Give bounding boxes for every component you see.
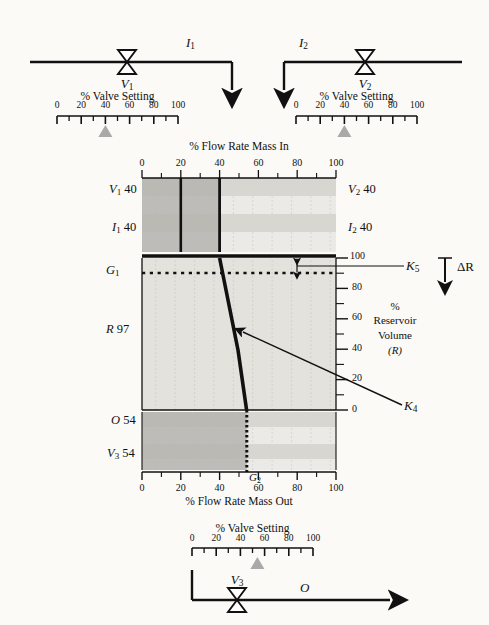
- chart-bottom-axis-title: % Flow Rate Mass Out: [185, 495, 292, 507]
- res-tick-0: 0: [352, 403, 357, 414]
- figure-canvas: V1 V2 I1 I2 % Valve Setting % Valve Sett…: [0, 0, 489, 625]
- res-tick-100: 100: [350, 250, 365, 261]
- res-tick-40: 40: [352, 342, 362, 353]
- row-label-i2: I2 40: [348, 220, 372, 235]
- chart-bottom-band: [142, 412, 336, 470]
- valve-v2-slider-handle[interactable]: [337, 125, 351, 137]
- chart-top-band: [142, 178, 336, 252]
- valve-v3-slider-scale[interactable]: [192, 548, 313, 556]
- row-label-g1: G1: [106, 263, 120, 278]
- chart-reservoir-region: [142, 258, 336, 410]
- top-piping-group: [30, 62, 462, 90]
- res-tick-60: 60: [352, 311, 362, 322]
- res-tick-80: 80: [352, 281, 362, 292]
- v2-tick-60: 60: [364, 100, 374, 110]
- top-tick-20: 20: [176, 157, 186, 168]
- valve-v2-scale-title: % Valve Setting: [320, 90, 394, 102]
- valve-v1-scale-title: % Valve Setting: [81, 90, 155, 102]
- row-label-o: O 54: [111, 413, 136, 428]
- v2-tick-0: 0: [294, 100, 299, 110]
- v1-tick-80: 80: [149, 100, 159, 110]
- axis-flow-out: [142, 472, 336, 480]
- bot-tick-40: 40: [215, 482, 225, 493]
- v3-tick-80: 80: [284, 533, 294, 543]
- row-label-v3: V3 54: [107, 446, 135, 461]
- row-label-r: R 97: [106, 322, 129, 337]
- bot-tick-100: 100: [329, 482, 344, 493]
- top-tick-40: 40: [215, 157, 225, 168]
- top-tick-0: 0: [140, 157, 145, 168]
- reservoir-axis-title-reservoir: Reservoir: [374, 314, 417, 326]
- v1-tick-20: 20: [76, 100, 86, 110]
- valve-v3-label: V3: [231, 572, 244, 588]
- stream-o-label: O: [300, 580, 309, 596]
- reservoir-axis-title-r: (R): [388, 344, 402, 356]
- stream-i2-label: I2: [299, 35, 308, 51]
- annotation-k4: K4: [404, 398, 417, 414]
- bot-tick-0: 0: [140, 482, 145, 493]
- v3-tick-60: 60: [260, 533, 270, 543]
- top-tick-60: 60: [253, 157, 263, 168]
- v3-tick-20: 20: [211, 533, 221, 543]
- axis-reservoir-volume: [336, 258, 348, 410]
- v3-tick-40: 40: [236, 533, 246, 543]
- v3-tick-100: 100: [306, 533, 320, 543]
- valve-v3-slider-handle[interactable]: [250, 557, 264, 569]
- row-label-i1: I1 40: [112, 220, 136, 235]
- v2-tick-80: 80: [388, 100, 398, 110]
- v1-tick-0: 0: [55, 100, 60, 110]
- bot-tick-60: 60: [253, 482, 263, 493]
- annotation-k5: K5: [406, 258, 419, 274]
- stream-i1-label: I1: [186, 35, 195, 51]
- v2-tick-100: 100: [410, 100, 424, 110]
- reservoir-axis-title-volume: Volume: [378, 329, 412, 341]
- bar-v3: [142, 440, 247, 470]
- axis-flow-in: [142, 170, 336, 178]
- v3-tick-0: 0: [190, 533, 195, 543]
- v2-tick-40: 40: [340, 100, 350, 110]
- v1-tick-100: 100: [171, 100, 185, 110]
- valve-v3-scale-title: % Valve Setting: [216, 522, 290, 534]
- bar-o: [142, 412, 247, 440]
- bot-tick-80: 80: [292, 482, 302, 493]
- reservoir-axis-title-pct: %: [390, 300, 399, 312]
- delta-r-arrow: [438, 258, 452, 282]
- row-label-v2: V2 40: [348, 182, 376, 197]
- v2-tick-20: 20: [315, 100, 325, 110]
- top-tick-100: 100: [329, 157, 344, 168]
- res-tick-20: 20: [352, 372, 362, 383]
- row-label-v1: V1 40: [109, 182, 137, 197]
- chart-top-axis-title: % Flow Rate Mass In: [189, 140, 289, 152]
- valve-v1-slider-scale[interactable]: [57, 116, 178, 124]
- v1-tick-40: 40: [101, 100, 111, 110]
- valve-v1-slider-handle[interactable]: [98, 125, 112, 137]
- v1-tick-60: 60: [125, 100, 135, 110]
- bot-tick-20: 20: [176, 482, 186, 493]
- top-tick-80: 80: [292, 157, 302, 168]
- annotation-delta-r: ΔR: [457, 259, 474, 275]
- bottom-piping-group: [192, 570, 390, 600]
- valve-v2-slider-scale[interactable]: [296, 116, 417, 124]
